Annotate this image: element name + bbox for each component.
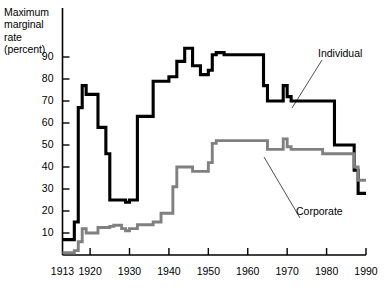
chart-plot-area xyxy=(0,0,386,291)
series-annotation-label: Individual xyxy=(318,47,362,59)
tax-rate-line-chart: Maximum marginal rate (percent) 10203040… xyxy=(0,0,386,291)
x-axis-tick-label: 1980 xyxy=(307,265,347,277)
chart-series xyxy=(63,48,367,253)
y-axis-tick-label: 10 xyxy=(30,226,54,238)
x-axis-tick-label: 1990 xyxy=(346,265,386,277)
x-axis-tick-label: 1960 xyxy=(228,265,268,277)
y-axis-ticks xyxy=(63,57,70,233)
y-axis-tick-label: 80 xyxy=(30,72,54,84)
series-annotation-label: Corporate xyxy=(296,205,343,217)
y-axis-tick-label: 70 xyxy=(30,94,54,106)
y-axis-tick-label: 90 xyxy=(30,50,54,62)
y-axis-tick-label: 60 xyxy=(30,116,54,128)
annotation-leader-lines xyxy=(264,60,322,218)
x-axis-tick-label: 1950 xyxy=(188,265,228,277)
x-axis-tick-label: 1970 xyxy=(267,265,307,277)
x-axis-tick-label: 1940 xyxy=(149,265,189,277)
y-axis-tick-label: 30 xyxy=(30,182,54,194)
y-axis-tick-label: 50 xyxy=(30,138,54,150)
series-line-corporate xyxy=(63,139,367,253)
x-axis-tick-label: 1930 xyxy=(110,265,150,277)
x-axis-tick-label: 1920 xyxy=(70,265,110,277)
y-axis-tick-label: 20 xyxy=(30,204,54,216)
y-axis-tick-label: 40 xyxy=(30,160,54,172)
chart-axes xyxy=(63,8,367,255)
leader-line xyxy=(264,157,300,218)
x-axis-ticks xyxy=(90,248,366,255)
